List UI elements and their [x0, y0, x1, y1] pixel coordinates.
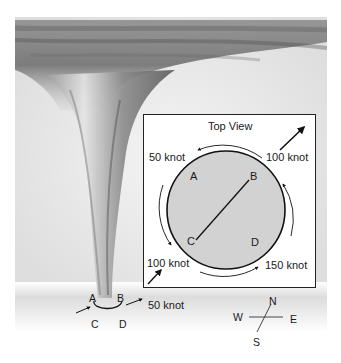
disk-point-b: B — [250, 171, 257, 182]
compass-north: N — [269, 296, 277, 307]
tornado-diagram: Top View 50 knot 100 knot 100 knot 150 k… — [0, 0, 341, 363]
wind-label-lower-left: 100 knot — [147, 258, 189, 269]
ground-point-a: A — [89, 293, 96, 304]
compass-east: E — [290, 314, 297, 325]
vortex-disk — [167, 151, 285, 269]
compass-west: W — [233, 312, 243, 323]
ground-point-b: B — [117, 293, 124, 304]
wind-label-upper-left: 50 knot — [149, 152, 185, 163]
disk-point-d: D — [251, 237, 259, 248]
top-view-title: Top View — [208, 121, 252, 132]
disk-point-c: C — [187, 236, 195, 247]
ground-motion-label: 50 knot — [148, 300, 184, 311]
wind-label-lower-right: 150 knot — [265, 260, 307, 271]
ground-point-c: C — [91, 319, 99, 330]
compass-south: S — [253, 337, 260, 348]
wind-label-upper-right: 100 knot — [266, 152, 308, 163]
ground-point-d: D — [119, 319, 127, 330]
disk-point-a: A — [190, 171, 197, 182]
